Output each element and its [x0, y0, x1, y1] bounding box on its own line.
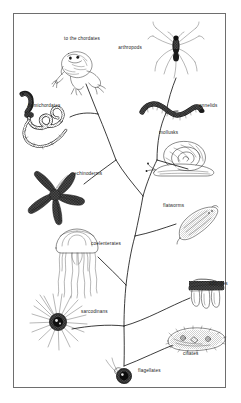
starfish-illustration: [28, 171, 84, 224]
label-sarcodinans: sarcodinans: [81, 309, 108, 314]
label-echinoderms: echinoderms: [74, 171, 102, 176]
frog-illustration: [52, 52, 105, 95]
hemichordate-illustration: [22, 93, 66, 149]
annelid-illustration: [142, 103, 205, 120]
tree-branches: [70, 78, 190, 366]
jellyfish-illustration: [56, 229, 98, 298]
label-mollusks: mollusks: [159, 130, 178, 135]
label-hemichordates: hemichordates: [28, 103, 60, 108]
phylogenetic-tree-figure: .br { fill:none; stroke:#1a1a1a; stroke-…: [0, 0, 241, 403]
label-flagellates: flagellates: [138, 368, 161, 373]
label-ciliates: ciliates: [183, 351, 198, 356]
label-sponges: sponges: [209, 281, 228, 286]
sarcodinan-illustration: [30, 294, 87, 350]
spider-illustration: [148, 22, 204, 78]
tree-illustration-canvas: .br { fill:none; stroke:#1a1a1a; stroke-…: [0, 0, 241, 403]
label-flatworms: flatworms: [163, 203, 184, 208]
label-chordates: to the chordates: [62, 36, 102, 41]
ciliate-illustration: [166, 326, 226, 353]
flagellate-illustration: [106, 358, 132, 384]
flatworm-illustration: [177, 206, 218, 245]
label-coelenterates: coelenterates: [91, 241, 121, 246]
label-annelids: annelids: [199, 103, 218, 108]
snail-illustration: [146, 141, 214, 176]
label-arthropods: arthropods: [109, 45, 142, 50]
